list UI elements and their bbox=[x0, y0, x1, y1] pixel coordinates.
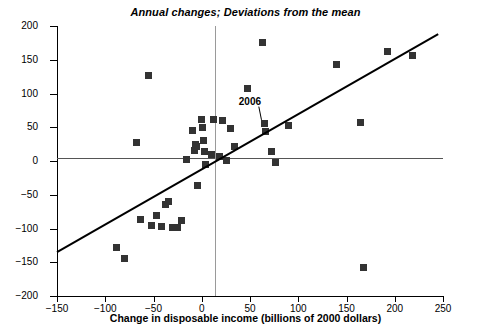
data-point bbox=[285, 122, 292, 129]
data-point bbox=[145, 72, 152, 79]
data-point bbox=[200, 137, 207, 144]
x-tick-label: 200 bbox=[373, 304, 417, 314]
data-point bbox=[333, 61, 340, 68]
y-tick-label: −50 bbox=[0, 190, 38, 200]
data-point bbox=[153, 212, 160, 219]
x-tick-label: −100 bbox=[83, 304, 127, 314]
x-tick-mark bbox=[57, 296, 58, 302]
y-tick-mark bbox=[50, 127, 57, 128]
data-point bbox=[194, 182, 201, 189]
y-tick-label: −100 bbox=[0, 224, 38, 234]
x-tick-mark bbox=[202, 296, 203, 302]
data-point bbox=[272, 159, 279, 166]
data-point bbox=[174, 224, 181, 231]
y-axis-labels: −200−150−100−50050100150200 bbox=[0, 26, 50, 297]
data-point bbox=[137, 216, 144, 223]
data-point bbox=[148, 222, 155, 229]
x-tick-label: 250 bbox=[421, 304, 465, 314]
data-point bbox=[178, 217, 185, 224]
data-point bbox=[227, 125, 234, 132]
data-point bbox=[262, 128, 269, 135]
x-axis-labels: −150−100−50050100150200250 bbox=[57, 296, 444, 326]
data-point bbox=[121, 255, 128, 262]
x-tick-label: −150 bbox=[35, 304, 79, 314]
data-point bbox=[183, 156, 190, 163]
plot-area bbox=[57, 26, 443, 296]
y-tick-mark bbox=[50, 262, 57, 263]
x-tick-mark bbox=[443, 296, 444, 302]
data-point bbox=[268, 148, 275, 155]
data-point bbox=[133, 139, 140, 146]
y-tick-mark bbox=[50, 296, 57, 297]
data-point bbox=[360, 264, 367, 271]
x-tick-label: 150 bbox=[325, 304, 369, 314]
scatter-chart: Annual changes; Deviations from the mean… bbox=[0, 0, 491, 333]
x-tick-mark bbox=[154, 296, 155, 302]
y-tick-mark bbox=[50, 60, 57, 61]
data-point bbox=[261, 120, 268, 127]
data-point bbox=[113, 244, 120, 251]
y-tick-mark bbox=[50, 161, 57, 162]
data-point bbox=[165, 198, 172, 205]
data-point bbox=[189, 127, 196, 134]
data-point bbox=[244, 85, 251, 92]
annotation-2006: 2006 bbox=[239, 96, 261, 107]
data-point bbox=[219, 117, 226, 124]
data-point bbox=[223, 157, 230, 164]
data-point bbox=[193, 143, 200, 150]
data-point bbox=[208, 151, 215, 158]
chart-title: Annual changes; Deviations from the mean bbox=[0, 6, 491, 18]
y-tick-label: 200 bbox=[0, 21, 38, 31]
x-tick-label: 100 bbox=[276, 304, 320, 314]
x-tick-mark bbox=[395, 296, 396, 302]
data-point bbox=[216, 153, 223, 160]
y-tick-label: 50 bbox=[0, 122, 38, 132]
x-tick-label: 0 bbox=[180, 304, 224, 314]
y-tick-mark bbox=[50, 94, 57, 95]
data-point bbox=[158, 223, 165, 230]
data-point bbox=[198, 116, 205, 123]
data-point bbox=[259, 39, 266, 46]
x-tick-mark bbox=[250, 296, 251, 302]
y-tick-label: 100 bbox=[0, 89, 38, 99]
y-tick-label: 0 bbox=[0, 156, 38, 166]
y-tick-mark bbox=[50, 26, 57, 27]
y-tick-label: −150 bbox=[0, 257, 38, 267]
data-point bbox=[199, 124, 206, 131]
data-point bbox=[357, 119, 364, 126]
y-tick-mark bbox=[50, 195, 57, 196]
y-tick-label: 150 bbox=[0, 55, 38, 65]
x-tick-mark bbox=[347, 296, 348, 302]
x-tick-label: −50 bbox=[132, 304, 176, 314]
y-tick-mark bbox=[50, 229, 57, 230]
data-point bbox=[384, 48, 391, 55]
y-tick-label: −200 bbox=[0, 291, 38, 301]
data-point bbox=[409, 52, 416, 59]
data-point bbox=[231, 143, 238, 150]
data-point bbox=[210, 116, 217, 123]
x-tick-mark bbox=[105, 296, 106, 302]
data-point bbox=[202, 161, 209, 168]
x-tick-label: 50 bbox=[228, 304, 272, 314]
x-tick-mark bbox=[298, 296, 299, 302]
